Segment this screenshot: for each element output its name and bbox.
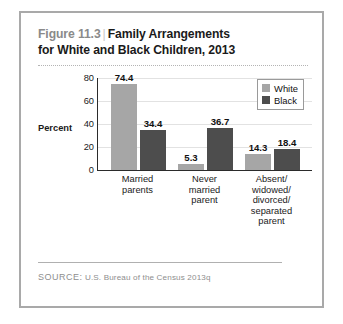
legend-label: White <box>274 83 298 94</box>
bar: 5.3 <box>178 164 204 170</box>
bar-chart: Percent 020406080 74.434.45.336.714.318.… <box>38 76 308 226</box>
x-axis-category-label: Absent/widowed/divorced/separatedparent <box>236 174 307 227</box>
bar: 34.4 <box>140 130 166 170</box>
bar-value-label: 34.4 <box>144 118 163 129</box>
x-axis-category-label: Nevermarriedparent <box>169 174 240 206</box>
y-axis-tick-label: 0 <box>89 165 94 175</box>
figure-card: Figure 11.3|Family Arrangements for Whit… <box>19 11 324 308</box>
legend-swatch-icon <box>262 96 270 104</box>
figure-title-line-1: Family Arrangements <box>108 27 230 41</box>
figure-content: Figure 11.3|Family Arrangements for Whit… <box>38 27 308 296</box>
y-axis-tick-label: 60 <box>84 96 94 106</box>
y-axis-title: Percent <box>38 123 72 133</box>
y-axis-tick-label: 80 <box>84 73 94 83</box>
legend-item: Black <box>262 94 298 106</box>
y-axis-tick-label: 20 <box>84 142 94 152</box>
title-separator: | <box>101 27 108 41</box>
source-text: SOURCE: U.S. Bureau of the Census 2013q <box>38 272 308 282</box>
legend-label: Black <box>274 95 297 106</box>
chart-legend: WhiteBlack <box>257 79 304 110</box>
source-divider <box>38 262 282 263</box>
bar-value-label: 74.4 <box>115 72 134 83</box>
bar: 18.4 <box>274 149 300 170</box>
bar-group: 74.434.4 <box>111 78 166 170</box>
bar: 74.4 <box>111 84 137 170</box>
bar: 36.7 <box>207 128 233 170</box>
figure-title: Figure 11.3|Family Arrangements for Whit… <box>38 27 308 58</box>
figure-title-line-2: for White and Black Children, 2013 <box>38 43 235 57</box>
source-citation: U.S. Bureau of the Census 2013q <box>85 273 211 282</box>
legend-item: White <box>262 82 298 94</box>
bar-value-label: 36.7 <box>211 116 230 127</box>
figure-number: Figure 11.3 <box>38 27 101 41</box>
x-axis-category-label: Marriedparents <box>102 174 173 195</box>
bar-value-label: 5.3 <box>184 152 197 163</box>
source-block: SOURCE: U.S. Bureau of the Census 2013q <box>38 262 308 282</box>
y-axis-tick-label: 40 <box>84 119 94 129</box>
title-divider <box>38 65 308 66</box>
bar: 14.3 <box>245 154 271 170</box>
bar-group: 5.336.7 <box>178 78 233 170</box>
source-label: SOURCE: <box>38 272 83 282</box>
bar-value-label: 18.4 <box>278 137 297 148</box>
legend-swatch-icon <box>262 84 270 92</box>
bar-value-label: 14.3 <box>249 142 268 153</box>
